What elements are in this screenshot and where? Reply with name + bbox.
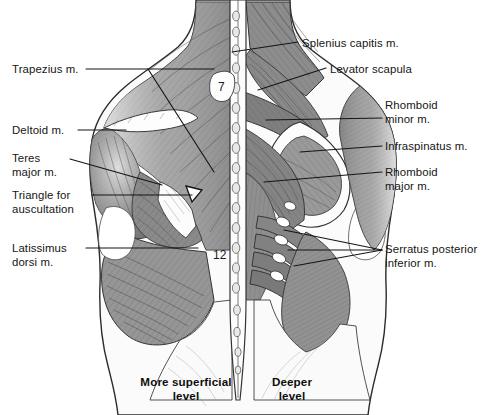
label-teres-major: Teres major m. xyxy=(12,152,57,179)
anatomy-figure: Trapezius m. Deltoid m. Teres major m. T… xyxy=(0,0,486,415)
label-splenius-capitis: Splenius capitis m. xyxy=(302,37,399,51)
label-trapezius: Trapezius m. xyxy=(12,63,79,77)
caption-deeper-level: Deeper level xyxy=(257,375,327,403)
caption-more-superficial-level: More superficial level xyxy=(126,375,246,403)
left-flank-window xyxy=(99,206,136,259)
c7-marker: 7 xyxy=(218,80,225,94)
label-rhomboid-minor: Rhomboid minor m. xyxy=(385,99,438,126)
label-deltoid: Deltoid m. xyxy=(12,124,64,138)
label-rhomboid-major: Rhomboid major m. xyxy=(385,166,438,193)
t12-marker: 12 xyxy=(213,248,226,262)
label-triangle-auscultation: Triangle for auscultation xyxy=(12,189,74,216)
label-serratus-posterior-inferior: Serratus posterior inferior m. xyxy=(385,243,477,270)
label-levator-scapula: Levator scapula xyxy=(330,63,412,77)
label-latissimus-dorsi: Latissimus dorsi m. xyxy=(12,242,67,269)
label-infraspinatus: Infraspinatus m. xyxy=(385,140,468,154)
